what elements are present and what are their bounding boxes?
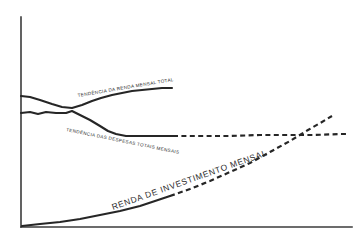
curve-investment-income-solid xyxy=(22,196,170,226)
total-expenses-label: TENDÊNCIA DAS DESPESAS TOTAIS MENSAIS xyxy=(66,125,180,155)
curve-total-expenses-dashed xyxy=(173,134,348,136)
chart-canvas: TENDÊNCIA DA RENDA MENSAL TOTAL TENDÊNCI… xyxy=(0,0,361,243)
investment-income-label: RENDA DE INVESTIMENTO MENSAL xyxy=(110,148,268,212)
chart-figure: TENDÊNCIA DA RENDA MENSAL TOTAL TENDÊNCI… xyxy=(0,0,361,243)
total-income-label: TENDÊNCIA DA RENDA MENSAL TOTAL xyxy=(77,75,174,98)
